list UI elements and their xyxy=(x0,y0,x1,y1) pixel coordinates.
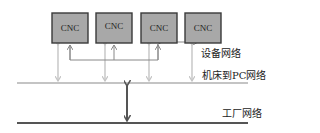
cnc-label: CNC xyxy=(105,21,124,31)
machine-to-pc-network-label: 机床到PC网络 xyxy=(202,67,266,82)
cnc-label: CNC xyxy=(61,23,80,33)
cnc-node-4: CNC xyxy=(185,13,221,43)
cnc-node-2: CNC xyxy=(96,13,132,43)
factory-network-label: 工厂网络 xyxy=(222,105,262,120)
cnc-node-1: CNC xyxy=(52,13,88,43)
cnc-label: CNC xyxy=(150,23,169,33)
cnc-label: CNC xyxy=(194,23,213,33)
device-network-label: 设备网络 xyxy=(201,45,241,60)
cnc-node-3: CNC xyxy=(141,13,177,43)
